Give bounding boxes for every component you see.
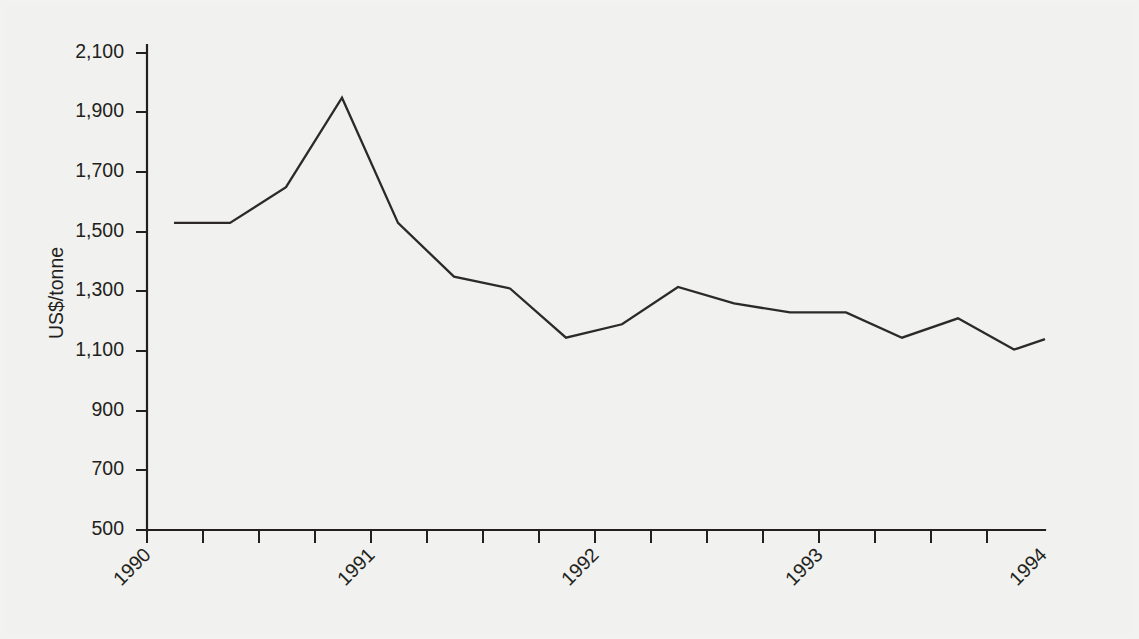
x-tick-label: 1991	[333, 543, 379, 589]
y-axis-tick-labels: 2,100 1,900 1,700 1,500 1,300 1,100 900 …	[75, 40, 124, 539]
x-axis-tick-labels: 1990 1991 1992 1993 1994	[109, 543, 1051, 589]
y-axis-ticks	[136, 53, 147, 530]
chart-plot-area: US$/tonne 2,100 1,900 1,700 1,500 1,300 …	[0, 0, 1139, 639]
y-tick-label: 1,500	[75, 219, 124, 241]
y-tick-label: 500	[91, 517, 124, 539]
x-tick-label: 1990	[109, 543, 155, 589]
x-tick-label: 1994	[1005, 543, 1051, 589]
line-chart-svg: US$/tonne 2,100 1,900 1,700 1,500 1,300 …	[0, 0, 1139, 639]
chart-figure: US$/tonne 2,100 1,900 1,700 1,500 1,300 …	[0, 0, 1139, 639]
y-tick-label: 1,900	[75, 99, 124, 121]
x-axis-ticks	[147, 530, 987, 543]
y-tick-label: 1,700	[75, 159, 124, 181]
y-axis-title-text: US$/tonne	[45, 247, 67, 339]
x-tick-label: 1993	[781, 543, 827, 589]
y-tick-label: 1,300	[75, 278, 124, 300]
y-tick-label: 700	[91, 457, 124, 479]
data-series-line	[174, 98, 1045, 350]
x-tick-label: 1992	[557, 543, 603, 589]
y-tick-label: 900	[91, 398, 124, 420]
y-tick-label: 2,100	[75, 40, 124, 62]
y-axis-title: US$/tonne	[45, 247, 67, 339]
y-tick-label: 1,100	[75, 338, 124, 360]
